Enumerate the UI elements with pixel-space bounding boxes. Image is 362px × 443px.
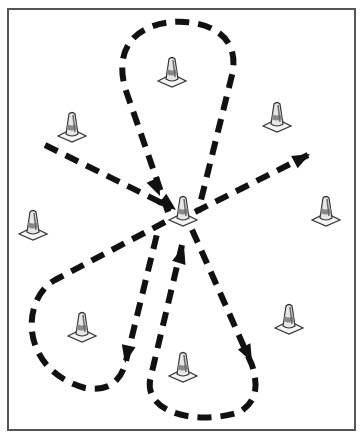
drill-diagram xyxy=(0,0,362,443)
